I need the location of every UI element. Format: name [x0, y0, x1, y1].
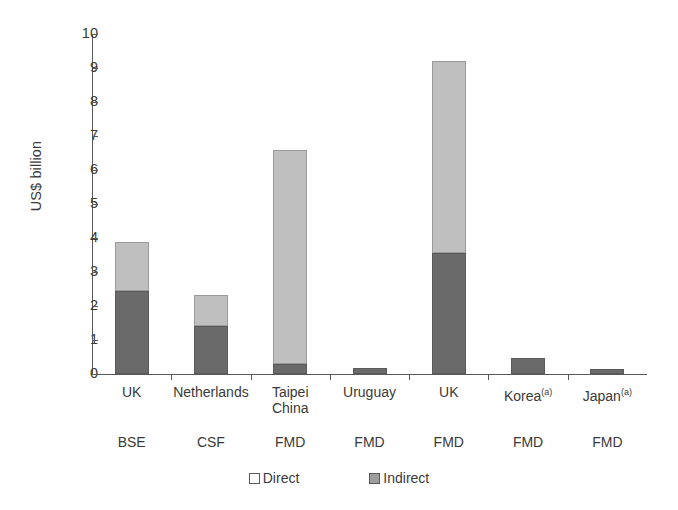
legend-item-direct: Direct: [249, 470, 300, 486]
bar-segment-direct: [194, 326, 228, 374]
legend-swatch-direct-icon: [249, 473, 260, 484]
chart-legend: Direct Indirect: [0, 470, 678, 486]
bar-segment-direct: [432, 253, 466, 374]
x-category-label-line2: China: [220, 400, 360, 416]
legend-label-indirect: Indirect: [383, 470, 429, 486]
bar-segment-indirect: [194, 295, 228, 326]
bar-segment-indirect: [432, 61, 466, 252]
bar-segment-direct: [353, 368, 387, 374]
bar-segment-direct: [511, 358, 545, 374]
bar-segment-direct: [273, 364, 307, 374]
bar-segment-indirect: [273, 150, 307, 364]
bar-segment-indirect: [115, 242, 149, 291]
legend-item-indirect: Indirect: [369, 470, 429, 486]
legend-label-direct: Direct: [263, 470, 300, 486]
bar-segment-direct: [590, 369, 624, 374]
x-group-label: FMD: [537, 434, 677, 450]
bar-chart: US$ billion 012345678910 UKNetherlandsTa…: [0, 0, 678, 510]
footnote-marker: (a): [621, 387, 632, 397]
legend-swatch-indirect-icon: [369, 473, 380, 484]
x-category-label: Japan(a): [537, 384, 677, 404]
bar-segment-direct: [115, 291, 149, 374]
